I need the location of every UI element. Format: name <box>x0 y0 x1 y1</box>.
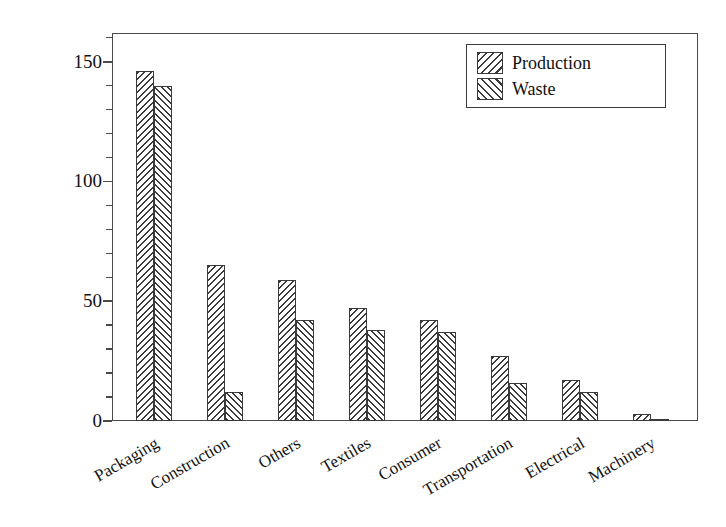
x-axis-tick-label: Construction <box>147 433 233 494</box>
bar-waste-textiles <box>367 330 385 421</box>
bar-production-electrical <box>562 380 580 421</box>
y-axis-major-tick <box>103 300 112 302</box>
bar-waste-transportation <box>509 383 527 421</box>
legend-swatch-production-icon <box>477 52 503 74</box>
bar-production-machinery <box>633 414 651 421</box>
bar-production-others <box>278 280 296 421</box>
x-axis-tick-label: Textiles <box>318 433 374 477</box>
bar-waste-electrical <box>580 392 598 421</box>
legend-label-waste: Waste <box>512 80 556 98</box>
y-axis-major-tick <box>103 61 112 63</box>
bar-production-textiles <box>349 308 367 421</box>
x-axis-tick-label: Machinery <box>585 433 659 487</box>
legend-item-waste: Waste <box>477 78 655 100</box>
y-axis-major-tick <box>103 181 112 183</box>
bar-production-transportation <box>491 356 509 421</box>
bar-chart: Annual quantity (Mt) 050100150 Packaging… <box>0 0 726 527</box>
bar-waste-packaging <box>154 86 172 421</box>
bar-waste-construction <box>225 392 243 421</box>
legend-label-production: Production <box>512 54 591 72</box>
bar-waste-consumer <box>438 332 456 421</box>
legend-swatch-waste-icon <box>477 78 503 100</box>
legend: Production Waste <box>466 44 666 108</box>
y-axis-tick-label: 150 <box>56 51 102 73</box>
x-axis-tick-label: Electrical <box>522 433 588 483</box>
bar-production-packaging <box>136 71 154 421</box>
legend-item-production: Production <box>477 52 655 74</box>
y-axis-major-tick <box>103 420 112 422</box>
bar-production-construction <box>207 265 225 421</box>
bar-waste-others <box>296 320 314 421</box>
y-axis-tick-label: 100 <box>56 170 102 192</box>
bar-waste-machinery <box>651 419 669 421</box>
y-axis-tick-label: 0 <box>56 410 102 432</box>
x-axis-tick-label: Others <box>255 433 304 473</box>
y-axis-tick-label: 50 <box>56 290 102 312</box>
bar-production-consumer <box>420 320 438 421</box>
